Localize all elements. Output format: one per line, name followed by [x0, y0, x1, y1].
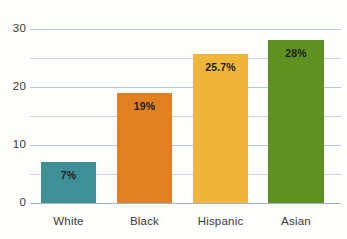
x-axis-label-white: White	[41, 216, 96, 228]
bar-chart: 30 20 10 0 7% 19% 25.7% 28% White Bl	[0, 0, 347, 239]
y-axis-label-0: 0	[0, 197, 26, 209]
x-axis-label-asian: Asian	[268, 216, 324, 228]
bar-hispanic[interactable]: 25.7%	[193, 54, 248, 203]
y-axis-label-10: 10	[0, 139, 26, 151]
bar-black[interactable]: 19%	[117, 93, 172, 203]
x-axis-baseline	[30, 203, 341, 204]
bar-label-hispanic: 25.7%	[193, 61, 248, 73]
x-axis-label-hispanic: Hispanic	[191, 216, 250, 228]
bar-asian[interactable]: 28%	[268, 40, 324, 203]
y-axis-label-20: 20	[0, 81, 26, 93]
bar-label-asian: 28%	[268, 47, 324, 59]
bar-fill-asian	[268, 40, 324, 203]
x-axis-label-black: Black	[117, 216, 172, 228]
gridline-30	[30, 29, 341, 30]
y-axis-label-30: 30	[0, 23, 26, 35]
bar-label-black: 19%	[117, 100, 172, 112]
plot-area: 7% 19% 25.7% 28%	[30, 20, 341, 210]
bar-label-white: 7%	[41, 169, 96, 181]
bar-fill-hispanic	[193, 54, 248, 203]
bar-white[interactable]: 7%	[41, 162, 96, 203]
